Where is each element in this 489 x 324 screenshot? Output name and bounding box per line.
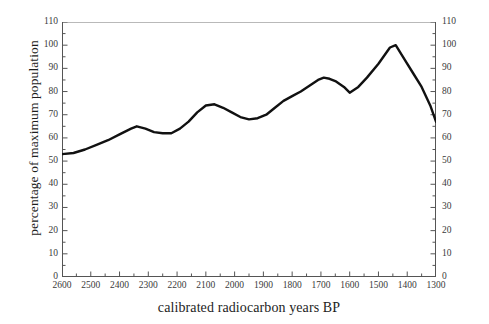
chart-figure: percentage of maximum population calibra… (0, 0, 489, 324)
x-axis-tick-label: 1900 (254, 281, 273, 291)
y-axis-left-tick-label: 70 (36, 110, 58, 120)
x-axis-tick-label: 2600 (53, 281, 72, 291)
x-axis-tick-label: 2000 (225, 281, 244, 291)
x-axis-ticks (62, 272, 436, 277)
line-chart-svg (62, 22, 436, 277)
y-axis-left-tick-label: 110 (36, 17, 58, 27)
y-axis-right-tick-label: 80 (442, 87, 464, 97)
y-axis-right-tick-label: 70 (442, 110, 464, 120)
x-axis-tick-label: 1400 (398, 281, 417, 291)
x-axis-title: calibrated radiocarbon years BP (62, 300, 436, 316)
x-axis-tick-label: 2500 (81, 281, 100, 291)
y-axis-right-tick-label: 50 (442, 156, 464, 166)
data-series-line (62, 45, 436, 154)
y-axis-right-ticks (431, 22, 436, 277)
x-axis-tick-label: 1500 (369, 281, 388, 291)
y-axis-right-tick-label: 90 (442, 64, 464, 74)
x-axis-tick-label: 1300 (427, 281, 446, 291)
y-axis-left-tick-label: 40 (36, 180, 58, 190)
y-axis-left-ticks (63, 22, 68, 277)
y-axis-left-tick-label: 90 (36, 64, 58, 74)
y-axis-right-tick-label: 30 (442, 203, 464, 213)
y-axis-right-tick-label: 100 (442, 40, 464, 50)
y-axis-left-tick-label: 100 (36, 40, 58, 50)
y-axis-left-tick-label: 50 (36, 156, 58, 166)
y-axis-left-tick-label: 20 (36, 226, 58, 236)
y-axis-left-tick-label: 10 (36, 249, 58, 259)
y-axis-right-tick-label: 10 (442, 249, 464, 259)
x-axis-tick-label: 2400 (110, 281, 129, 291)
y-axis-left-tick-label: 60 (36, 133, 58, 143)
y-axis-right-tick-label: 40 (442, 180, 464, 190)
y-axis-right-tick-label: 20 (442, 226, 464, 236)
x-axis-tick-label: 2100 (196, 281, 215, 291)
y-axis-right-tick-label: 60 (442, 133, 464, 143)
x-axis-tick-label: 1800 (283, 281, 302, 291)
x-axis-tick-label: 1600 (340, 281, 359, 291)
y-axis-left-tick-label: 80 (36, 87, 58, 97)
x-axis-tick-label: 2200 (168, 281, 187, 291)
x-axis-tick-label: 1700 (311, 281, 330, 291)
y-axis-left-tick-label: 30 (36, 203, 58, 213)
x-axis-tick-label: 2300 (139, 281, 158, 291)
plot-area: 0102030405060708090100110 01020304050607… (62, 22, 436, 277)
y-axis-right-tick-label: 110 (442, 17, 464, 27)
